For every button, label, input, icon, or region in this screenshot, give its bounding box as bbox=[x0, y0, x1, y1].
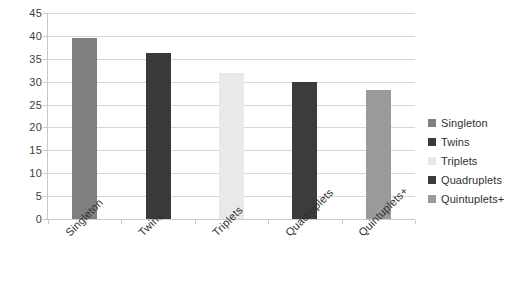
legend-label: Quintuplets+ bbox=[441, 193, 504, 205]
gridline bbox=[48, 59, 415, 60]
legend-item[interactable]: Triplets bbox=[428, 151, 504, 170]
legend-label: Twins bbox=[441, 136, 470, 148]
x-tick-mark bbox=[342, 220, 343, 224]
chart-legend: SingletonTwinsTripletsQuadrupletsQuintup… bbox=[428, 113, 504, 208]
y-tick-label: 40 bbox=[0, 30, 42, 41]
legend-swatch-icon bbox=[428, 176, 436, 184]
gridline bbox=[48, 13, 415, 14]
x-tick-mark bbox=[195, 220, 196, 224]
x-tick-mark bbox=[268, 220, 269, 224]
y-tick-label: 10 bbox=[0, 168, 42, 179]
bar-singleton bbox=[72, 38, 97, 219]
y-tick-mark bbox=[43, 59, 47, 60]
legend-swatch-icon bbox=[428, 138, 436, 146]
legend-swatch-icon bbox=[428, 157, 436, 165]
y-tick-mark bbox=[43, 173, 47, 174]
x-tick-mark bbox=[415, 220, 416, 224]
y-tick-label: 0 bbox=[0, 214, 42, 225]
y-tick-label: 20 bbox=[0, 122, 42, 133]
y-tick-mark bbox=[43, 127, 47, 128]
y-tick-label: 45 bbox=[0, 8, 42, 19]
gridline bbox=[48, 36, 415, 37]
y-tick-mark bbox=[43, 13, 47, 14]
legend-swatch-icon bbox=[428, 195, 436, 203]
bar-twins bbox=[146, 53, 171, 219]
x-tick-mark bbox=[121, 220, 122, 224]
legend-item[interactable]: Twins bbox=[428, 132, 504, 151]
y-tick-mark bbox=[43, 219, 47, 220]
bar-chart: 454035302520151050 SingletonTwinsTriplet… bbox=[0, 0, 525, 296]
x-tick-mark bbox=[48, 220, 49, 224]
y-tick-label: 30 bbox=[0, 76, 42, 87]
y-tick-mark bbox=[43, 150, 47, 151]
y-tick-label: 15 bbox=[0, 145, 42, 156]
legend-label: Quadruplets bbox=[441, 174, 502, 186]
legend-swatch-icon bbox=[428, 119, 436, 127]
y-axis-labels: 454035302520151050 bbox=[0, 0, 42, 219]
y-tick-mark bbox=[43, 105, 47, 106]
y-tick-label: 35 bbox=[0, 53, 42, 64]
y-tick-mark bbox=[43, 196, 47, 197]
y-tick-mark bbox=[43, 36, 47, 37]
bar-triplets bbox=[219, 73, 244, 219]
plot-area bbox=[48, 13, 415, 219]
legend-label: Triplets bbox=[441, 155, 477, 167]
y-tick-mark bbox=[43, 82, 47, 83]
y-tick-label: 25 bbox=[0, 99, 42, 110]
legend-item[interactable]: Quintuplets+ bbox=[428, 189, 504, 208]
legend-label: Singleton bbox=[441, 117, 488, 129]
y-tick-label: 5 bbox=[0, 191, 42, 202]
legend-item[interactable]: Singleton bbox=[428, 113, 504, 132]
legend-item[interactable]: Quadruplets bbox=[428, 170, 504, 189]
